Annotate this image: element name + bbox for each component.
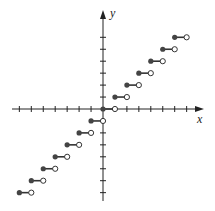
open-dot-icon: [112, 106, 117, 111]
step-segment: [41, 166, 58, 171]
step-segment: [65, 142, 82, 147]
step-function-plot: x y: [0, 0, 215, 211]
open-dot-icon: [65, 154, 70, 159]
closed-dot-icon: [112, 94, 117, 99]
step-segment: [148, 59, 165, 64]
y-axis-label: y: [109, 6, 116, 20]
step-segment: [77, 130, 94, 135]
step-segment: [124, 83, 141, 88]
step-segment: [53, 154, 70, 159]
open-dot-icon: [136, 83, 141, 88]
step-segment: [136, 71, 153, 76]
closed-dot-icon: [172, 35, 177, 40]
step-segment: [160, 47, 177, 52]
open-dot-icon: [53, 166, 58, 171]
open-dot-icon: [160, 59, 165, 64]
step-segment: [17, 190, 34, 195]
closed-dot-icon: [136, 71, 141, 76]
closed-dot-icon: [29, 178, 34, 183]
closed-dot-icon: [77, 130, 82, 135]
open-dot-icon: [100, 118, 105, 123]
open-dot-icon: [184, 35, 189, 40]
open-dot-icon: [41, 178, 46, 183]
step-segment: [100, 106, 117, 111]
y-axis-arrow-icon: [100, 10, 106, 19]
step-segment: [172, 35, 189, 40]
step-segment: [112, 94, 129, 99]
open-dot-icon: [29, 190, 34, 195]
closed-dot-icon: [17, 190, 22, 195]
step-segment: [29, 178, 46, 183]
closed-dot-icon: [148, 59, 153, 64]
open-dot-icon: [77, 142, 82, 147]
open-dot-icon: [148, 71, 153, 76]
open-dot-icon: [172, 47, 177, 52]
closed-dot-icon: [41, 166, 46, 171]
open-dot-icon: [124, 94, 129, 99]
open-dot-icon: [88, 130, 93, 135]
step-segment: [88, 118, 105, 123]
closed-dot-icon: [160, 47, 165, 52]
x-axis-label: x: [196, 112, 203, 126]
closed-dot-icon: [65, 142, 70, 147]
closed-dot-icon: [100, 106, 105, 111]
closed-dot-icon: [124, 83, 129, 88]
closed-dot-icon: [88, 118, 93, 123]
closed-dot-icon: [53, 154, 58, 159]
